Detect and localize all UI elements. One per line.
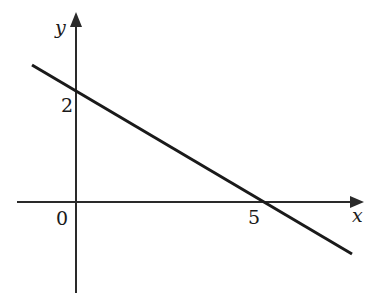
graph-canvas: y x 0 2 5 bbox=[0, 0, 376, 302]
line-graph-figure: y x 0 2 5 bbox=[0, 0, 376, 302]
line-series bbox=[32, 65, 352, 254]
y-tick-label-2: 2 bbox=[61, 94, 73, 116]
y-axis-arrow-icon bbox=[70, 12, 82, 27]
x-axis-label: x bbox=[352, 204, 363, 226]
origin-label: 0 bbox=[56, 207, 68, 229]
x-tick-label-5: 5 bbox=[248, 206, 260, 228]
y-axis-label: y bbox=[54, 16, 66, 38]
